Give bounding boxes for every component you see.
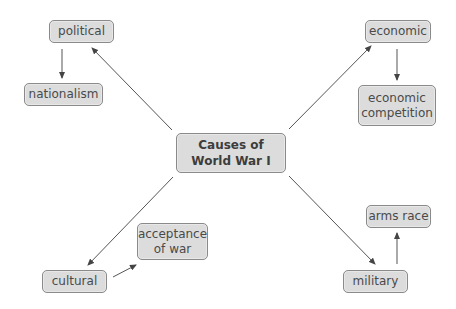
arrow-center-to-political: [92, 48, 172, 130]
arrow-center-to-military: [289, 176, 375, 264]
node-acceptance-of-war: acceptance of war: [137, 223, 208, 260]
node-military: military: [343, 270, 408, 293]
node-label: economic: [369, 24, 427, 39]
node-economic-competition: economic competition: [358, 85, 436, 126]
node-label: acceptance of war: [138, 227, 207, 257]
arrow-cultural-to-acceptance: [113, 265, 136, 277]
node-economic: economic: [365, 20, 431, 43]
node-label: arms race: [368, 209, 428, 224]
node-cultural: cultural: [42, 270, 107, 293]
node-arms-race: arms race: [366, 205, 431, 228]
node-label: military: [353, 274, 399, 289]
node-political: political: [49, 20, 114, 43]
node-label: nationalism: [29, 87, 99, 102]
node-label: Causes of World War I: [191, 137, 270, 169]
node-label: economic competition: [361, 91, 433, 121]
concept-map: Causes of World War I political national…: [0, 0, 456, 309]
node-label: cultural: [52, 274, 97, 289]
node-nationalism: nationalism: [24, 83, 103, 106]
node-causes-of-world-war-i: Causes of World War I: [176, 133, 286, 173]
node-label: political: [58, 24, 105, 39]
